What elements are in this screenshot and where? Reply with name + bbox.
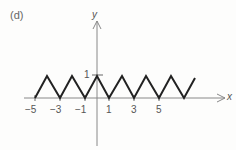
x-tick-label: −5 — [25, 104, 36, 115]
triangle-wave-line — [35, 76, 195, 98]
x-tick-label: −3 — [50, 104, 61, 115]
x-tick-label: −1 — [75, 104, 86, 115]
triangle-wave-chart — [0, 0, 236, 150]
x-tick-label: 3 — [131, 104, 137, 115]
x-tick-label: 1 — [106, 104, 112, 115]
y-axis-label: y — [92, 9, 97, 20]
x-axis-label: x — [227, 91, 232, 102]
x-tick-label: 5 — [156, 104, 162, 115]
y-tick-label-1: 1 — [84, 69, 90, 80]
